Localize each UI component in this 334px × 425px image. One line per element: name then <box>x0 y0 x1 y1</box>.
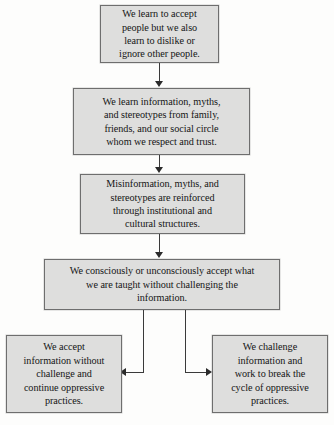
connector-node4-to-node6-vertical <box>185 310 186 372</box>
flow-node-misinformation-reinforced: Misinformation, myths, and stereotypes a… <box>80 174 245 234</box>
connector-node3-to-node4-arrowhead <box>155 252 163 258</box>
flow-node-learn-information: We learn information, myths, and stereot… <box>73 88 250 155</box>
flow-node-accept-continue-oppressive: We accept information without challenge … <box>6 335 122 413</box>
flow-node-text: We learn to accept people but we also le… <box>106 7 213 61</box>
flow-node-text: We accept information without challenge … <box>12 340 116 407</box>
flow-node-learn-to-accept: We learn to accept people but we also le… <box>100 5 219 63</box>
flowchart-canvas: We learn to accept people but we also le… <box>0 0 334 425</box>
flow-node-text: We challenge information and work to bre… <box>218 340 322 407</box>
connector-node4-to-node5-horizontal <box>126 372 144 373</box>
flow-node-text: Misinformation, myths, and stereotypes a… <box>86 177 239 231</box>
connector-node3-to-node4-line <box>159 234 160 253</box>
flow-node-text: We learn information, myths, and stereot… <box>79 95 244 149</box>
flow-node-challenge-break-cycle: We challenge information and work to bre… <box>212 335 328 413</box>
connector-node2-to-node3-arrowhead <box>155 167 163 173</box>
connector-node4-to-node5-vertical <box>143 310 144 372</box>
connector-node1-to-node2-arrowhead <box>155 81 163 87</box>
flow-node-text: We consciously or unconsciously accept w… <box>50 264 274 304</box>
connector-node1-to-node2-line <box>159 63 160 82</box>
connector-node4-to-node6-horizontal <box>185 372 207 373</box>
flow-node-accept-without-challenging: We consciously or unconsciously accept w… <box>44 259 280 310</box>
